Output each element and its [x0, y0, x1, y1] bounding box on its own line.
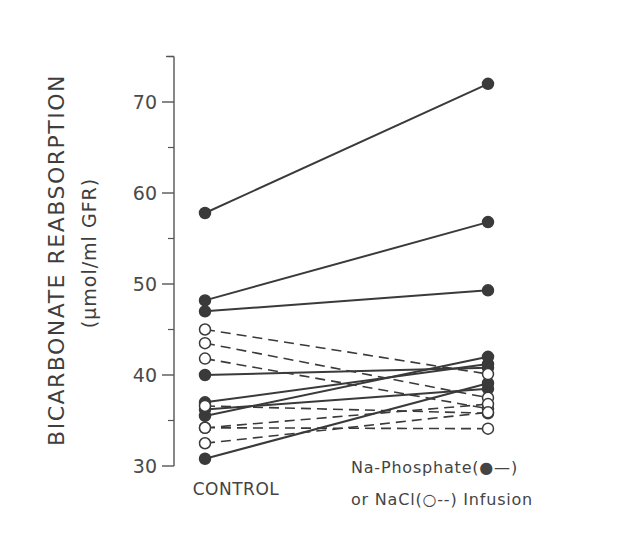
- y-axis-title: BICARBONATE REABSORPTION: [44, 74, 69, 446]
- chart: 3040506070 BICARBONATE REABSORPTION (µmo…: [0, 0, 642, 537]
- y-axis: 3040506070: [133, 57, 174, 478]
- open-circle-marker: [200, 338, 211, 349]
- open-circle-marker: [483, 407, 494, 418]
- legend-line-2: or NaCl(○--) Infusion: [351, 490, 533, 509]
- phosphate-line: [205, 222, 488, 300]
- open-circle-marker: [483, 423, 494, 434]
- y-tick-label: 70: [133, 91, 157, 113]
- phosphate-line: [205, 84, 488, 213]
- phosphate-line: [205, 290, 488, 311]
- filled-circle-marker: [483, 285, 494, 296]
- x-category-control: CONTROL: [193, 479, 280, 499]
- filled-circle-marker: [200, 295, 211, 306]
- phosphate-line: [205, 364, 488, 402]
- open-circle-marker: [483, 369, 494, 380]
- filled-circle-marker: [200, 306, 211, 317]
- filled-circle-marker: [200, 453, 211, 464]
- open-circle-marker: [200, 324, 211, 335]
- y-tick-label: 50: [133, 273, 157, 295]
- nacl-line: [205, 330, 488, 375]
- y-tick-label: 40: [133, 364, 157, 386]
- open-circle-marker: [200, 353, 211, 364]
- open-circle-marker: [200, 422, 211, 433]
- open-circle-marker: [200, 400, 211, 411]
- legend-line-1: Na-Phosphate(●—): [351, 458, 518, 477]
- filled-circle-marker: [483, 217, 494, 228]
- data-lines: [205, 84, 488, 459]
- y-tick-label: 60: [133, 182, 157, 204]
- filled-circle-marker: [200, 370, 211, 381]
- phosphate-line: [205, 389, 488, 410]
- y-axis-units: (µmol/ml GFR): [78, 178, 100, 328]
- filled-circle-marker: [483, 78, 494, 89]
- filled-circle-marker: [483, 351, 494, 362]
- nacl-line: [205, 428, 488, 429]
- phosphate-line: [205, 383, 488, 459]
- filled-circle-marker: [200, 208, 211, 219]
- open-circle-marker: [200, 438, 211, 449]
- y-tick-label: 30: [133, 455, 157, 477]
